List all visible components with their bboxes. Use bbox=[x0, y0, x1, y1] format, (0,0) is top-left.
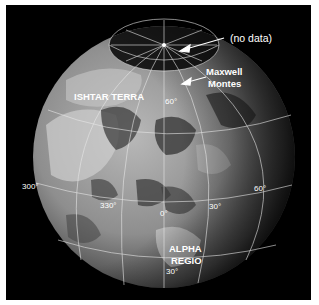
map-frame: (no data) Maxwell Montes ISHTAR TERRA AL… bbox=[6, 5, 311, 300]
longitude-0-label: 0° bbox=[160, 209, 168, 218]
maxwell-montes-label-line2: Montes bbox=[208, 78, 241, 89]
latitude-60n-label: 60° bbox=[165, 97, 177, 106]
maxwell-montes-label-line1: Maxwell bbox=[206, 66, 242, 77]
alpha-regio-label-line2: REGIO bbox=[171, 255, 202, 266]
no-data-label: (no data) bbox=[230, 32, 272, 44]
north-pole-marker bbox=[162, 43, 166, 47]
longitude-330-label: 330° bbox=[100, 201, 117, 210]
ishtar-terra-label: ISHTAR TERRA bbox=[74, 91, 144, 102]
longitude-300-label: 300° bbox=[22, 182, 39, 191]
latitude-30s-label: 30° bbox=[166, 267, 178, 276]
longitude-30-label: 30° bbox=[209, 202, 221, 211]
longitude-60-label: 60° bbox=[254, 184, 266, 193]
alpha-regio-label-line1: ALPHA bbox=[169, 243, 202, 254]
venus-globe-map: (no data) Maxwell Montes ISHTAR TERRA AL… bbox=[6, 5, 311, 300]
